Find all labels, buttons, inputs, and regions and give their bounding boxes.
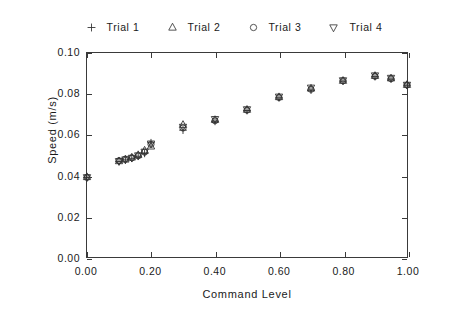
circle-icon <box>247 21 260 34</box>
legend-entry-4[interactable]: Trial 4 <box>327 21 382 34</box>
y-axis-tick <box>402 94 407 95</box>
x-axis-tick <box>345 252 346 257</box>
series-4 <box>83 73 410 182</box>
x-axis-title: Command Level <box>86 288 408 300</box>
x-tick-label: 0.40 <box>204 265 226 277</box>
y-axis-tick <box>402 53 407 54</box>
x-tick-label: 0.60 <box>268 265 290 277</box>
y-tick-label: 0.02 <box>58 211 80 223</box>
plus-icon <box>85 21 98 34</box>
x-tick-label: 0.20 <box>139 265 161 277</box>
x-tick-label: 0.80 <box>332 265 354 277</box>
x-axis-tick <box>409 53 410 58</box>
x-axis-tick <box>87 252 88 257</box>
x-axis-tick <box>216 53 217 58</box>
y-axis-tick-labels: 0.000.020.040.060.080.10 <box>36 52 80 258</box>
series-3 <box>84 73 410 180</box>
y-axis-tick <box>87 259 92 260</box>
x-axis-tick <box>151 53 152 58</box>
y-axis-tick <box>402 177 407 178</box>
plot-area <box>86 52 408 258</box>
y-tick-label: 0.06 <box>58 128 80 140</box>
legend-label: Trial 1 <box>107 21 140 33</box>
triangle-down-icon <box>327 21 340 34</box>
y-tick-label: 0.00 <box>58 252 80 264</box>
legend-label: Trial 3 <box>269 21 302 33</box>
y-axis-tick <box>87 218 92 219</box>
legend-entry-1[interactable]: Trial 1 <box>85 21 140 34</box>
x-axis-tick <box>345 53 346 58</box>
x-axis-tick-labels: 0.000.200.400.600.801.00 <box>86 265 408 281</box>
x-axis-tick <box>409 252 410 257</box>
y-axis-tick <box>87 177 92 178</box>
scatter-plot-figure: Trial 1Trial 2Trial 3Trial 4 0.000.020.0… <box>0 0 467 315</box>
legend-label: Trial 2 <box>188 21 221 33</box>
y-axis-tick <box>402 135 407 136</box>
y-axis-tick <box>402 259 407 260</box>
series-1 <box>83 73 411 181</box>
y-axis-tick <box>402 218 407 219</box>
x-tick-label: 1.00 <box>397 265 419 277</box>
y-axis-title: Speed (m/s) <box>46 70 58 190</box>
y-tick-label: 0.04 <box>58 170 80 182</box>
triangle-up-icon <box>166 21 179 34</box>
x-axis-tick <box>87 53 88 58</box>
legend-label: Trial 4 <box>349 21 382 33</box>
legend-entry-2[interactable]: Trial 2 <box>166 21 221 34</box>
y-axis-tick <box>87 135 92 136</box>
x-axis-tick <box>280 53 281 58</box>
series-2 <box>83 72 410 180</box>
y-axis-tick <box>87 94 92 95</box>
x-axis-tick <box>280 252 281 257</box>
data-markers-layer <box>87 53 407 257</box>
y-tick-label: 0.10 <box>58 46 80 58</box>
chart-legend: Trial 1Trial 2Trial 3Trial 4 <box>0 16 467 38</box>
x-tick-label: 0.00 <box>75 265 97 277</box>
x-axis-tick <box>216 252 217 257</box>
y-tick-label: 0.08 <box>58 87 80 99</box>
x-axis-tick <box>151 252 152 257</box>
legend-entry-3[interactable]: Trial 3 <box>247 21 302 34</box>
